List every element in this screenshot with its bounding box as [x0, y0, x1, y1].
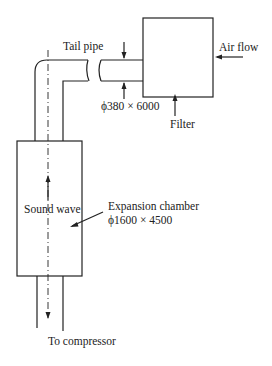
- label-filter: Filter: [170, 118, 195, 130]
- arrowheads: [46, 52, 223, 319]
- silencer-diagram: Tail pipe Air flow ϕ380 × 6000 Filter So…: [0, 0, 272, 366]
- label-to-compressor: To compressor: [48, 335, 116, 348]
- pipe-break-left: [87, 60, 89, 81]
- tail-pipe-outer: [35, 60, 88, 141]
- label-pipe-dimension: ϕ380 × 6000: [101, 100, 160, 113]
- tail-pipe-right: [101, 60, 143, 81]
- outlet-pipe: [37, 276, 63, 331]
- label-expansion-chamber: Expansion chamber: [108, 200, 199, 213]
- label-air-flow: Air flow: [219, 41, 259, 53]
- tail-pipe-inner: [63, 81, 88, 141]
- pipe-break-right: [99, 60, 101, 81]
- filter-box: [143, 18, 213, 97]
- label-chamber-dimension: ϕ1600 × 4500: [108, 214, 173, 227]
- label-tail-pipe: Tail pipe: [63, 40, 103, 53]
- label-sound-wave: Sound wave: [24, 203, 81, 215]
